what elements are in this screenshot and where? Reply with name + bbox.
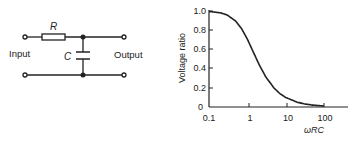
y-tick-label: 0.2 [193,83,206,93]
y-tick-label: 0.6 [193,44,206,54]
y-tick-labels: 1.0 0.8 0.6 0.4 0.2 0 [193,6,206,112]
y-tick-label: 0.8 [193,25,206,35]
resistor-symbol [42,34,65,40]
capacitor-label: C [64,51,72,62]
junction-dot-top [81,35,86,40]
x-tick-label: 0.1 [203,113,216,123]
rc-circuit [23,34,126,78]
input-label: Input [9,48,30,59]
chart: 1.0 0.8 0.6 0.4 0.2 0 0.1 1 10 100 Volta… [177,6,348,135]
junction-dot-bottom [81,73,86,78]
y-tick-label: 1.0 [193,6,206,16]
voltage-ratio-curve [209,11,324,106]
input-terminal-bottom [23,73,27,77]
input-terminal-top [23,35,27,39]
x-tick-label: 1 [247,113,252,123]
x-tick-label: 10 [283,113,293,123]
figure: R C Input Output 1.0 0.8 0.6 0.4 0.2 0 [0,0,363,145]
y-tick-label: 0 [198,102,203,112]
resistor-label: R [50,21,57,32]
output-label: Output [114,49,143,60]
x-tick-label: 100 [317,113,332,123]
y-ticks [209,11,213,88]
x-tick-labels: 0.1 1 10 100 [203,113,333,123]
y-tick-label: 0.4 [193,63,206,73]
output-terminal-bottom [122,73,126,77]
y-axis-label: Voltage ratio [177,33,187,83]
x-axis-label: ωRC [304,125,325,135]
output-terminal-top [122,35,126,39]
